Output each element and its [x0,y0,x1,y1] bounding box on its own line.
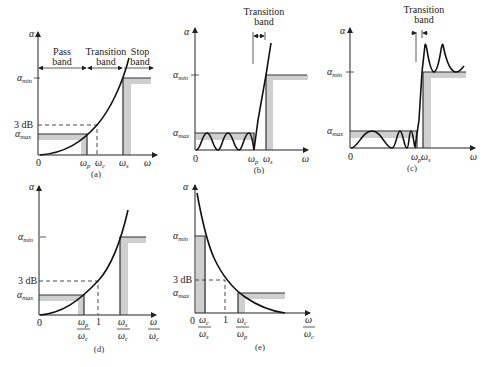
band-label: band [96,56,115,67]
alpha-axis-label-d: α [183,181,189,192]
origin-label: 0 [348,151,353,162]
omega-c-over-omega-s-label: ωc ωs [198,314,211,340]
svg-text:ωc: ωc [149,330,159,342]
omega-p-over-omega-c-label: ωp ωc [77,316,90,342]
panel-b: Transition band α αmin αmax 0 ωp ωs ω (b… [173,6,309,175]
svg-text:ωp: ωp [78,316,89,328]
panel-a: Pass band Transition band Stop band α αm… [14,28,157,179]
svg-text:ωp: ωp [237,328,248,340]
omega-axis-label: ω [470,151,477,162]
band-label: band [130,56,149,67]
alpha-axis-label: α [340,25,346,36]
one-label: 1 [223,314,228,325]
stopband-shade-vertical [123,78,131,155]
band-label: band [414,14,433,25]
omega-over-omega-c-axis-label: ω ωc [303,314,315,340]
svg-text:ωs: ωs [199,328,209,340]
panel-e: α αmin 3 dB αmax 0 ωc ωs 1 ωc ωp ω ωc (e… [173,181,315,352]
omega-axis-label: ω [144,157,151,168]
stopband-shade-vertical [120,237,128,315]
caption-e: (e) [255,342,265,352]
panel-c: Transition band α αmin αmax 0 ωp ωs ω (c… [327,4,477,173]
omega-c-label: ωc [95,157,105,169]
svg-text:ωs: ωs [118,316,128,328]
alpha-min-label: αmin [18,231,33,243]
band-label: band [52,56,71,67]
passband-shade [38,134,86,140]
svg-text:ω: ω [305,314,312,325]
three-db-label: 3 dB [173,274,193,285]
svg-text:ωc: ωc [304,328,314,340]
omega-s-label: ωs [421,151,431,163]
alpha-max-label: αmax [327,125,343,137]
svg-text:ωc: ωc [237,314,247,326]
origin-label: 0 [190,315,195,326]
omega-c-over-omega-p-label: ωc ωp [236,314,249,340]
alpha-axis-label: α [184,26,190,37]
alpha-min-label: αmin [327,66,342,78]
caption-c: (c) [407,163,417,173]
alpha-min-label: αmin [173,69,188,81]
alpha-max-label: αmax [173,287,189,299]
omega-p-label: ωp [80,157,91,169]
omega-s-label: ωs [119,157,129,169]
alpha-axis-label: α [29,28,35,39]
omega-s-label: ωs [263,153,273,165]
caption-a: (a) [91,169,101,179]
svg-text:ωc: ωc [78,330,88,342]
svg-text:ωc: ωc [199,314,209,326]
filter-specification-figure: Pass band Transition band Stop band α αm… [0,0,485,367]
panel-d: αmin 3 dB αmax 0 ωp ωc 1 ωs ωc ω ωc (d) [17,186,160,354]
caption-d: (d) [94,344,105,354]
alpha-max-label: αmax [173,127,189,139]
alpha-max-label: αmax [17,289,33,301]
passband-shade [238,293,285,299]
caption-b: (b) [254,165,265,175]
one-label: 1 [96,316,101,327]
stopband-shade-vertical [423,72,431,148]
alpha-min-label: αmin [173,230,188,242]
omega-over-omega-c-axis-label: ω ωc [148,316,160,342]
svg-text:ωc: ωc [118,330,128,342]
origin-label: 0 [193,153,198,164]
stopband-shade-vertical [266,75,273,150]
omega-p-label: ωp [248,153,259,165]
origin-label: 0 [37,317,42,328]
origin-label: 0 [36,157,41,168]
alpha-min-label: αmin [17,72,32,84]
omega-s-over-omega-c-label: ωs ωc [117,316,130,342]
three-db-label: 3 dB [18,275,38,286]
omega-axis-label: ω [302,153,309,164]
alpha-axis-label: α [29,181,35,192]
svg-text:ω: ω [150,316,157,327]
band-label: band [254,16,273,27]
passband-shade [351,131,417,138]
